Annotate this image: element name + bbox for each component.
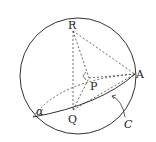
label-alpha: α xyxy=(36,105,44,118)
line-RP xyxy=(73,31,89,78)
arrow-to-circle-c xyxy=(112,96,125,117)
circle-c-back-arc xyxy=(33,74,135,117)
label-C: C xyxy=(124,118,133,131)
sphere-diagram: R A P Q α C xyxy=(0,0,156,142)
right-angle-mark xyxy=(83,72,86,80)
label-Q: Q xyxy=(68,113,77,126)
label-R: R xyxy=(68,19,77,32)
label-A: A xyxy=(135,68,145,81)
label-P: P xyxy=(90,80,98,93)
line-RA xyxy=(73,31,135,74)
circle-c-front-arc xyxy=(33,74,135,117)
line-PA xyxy=(89,74,135,78)
